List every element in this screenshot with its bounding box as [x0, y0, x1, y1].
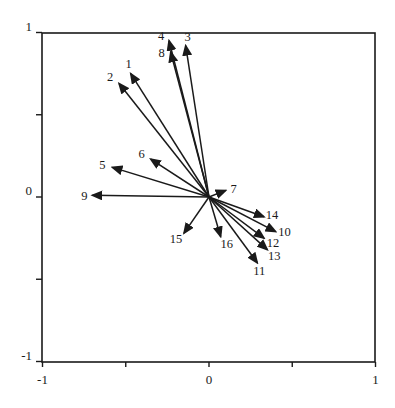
- x-tick-label: 1: [372, 372, 379, 387]
- y-tick-label: 0: [26, 183, 33, 198]
- vector-arrow-12: [209, 197, 264, 238]
- vector-label-9: 9: [81, 189, 87, 203]
- axes: -101-101: [21, 19, 379, 388]
- vector-label-4: 4: [158, 29, 165, 43]
- vector-biplot-chart: -101-101 12345678910111213141516: [0, 0, 395, 408]
- vector-label-16: 16: [220, 237, 233, 251]
- vector-label-10: 10: [278, 225, 291, 239]
- vector-arrow-11: [209, 197, 257, 263]
- vector-label-5: 5: [99, 158, 105, 172]
- y-tick-label: 1: [26, 19, 33, 34]
- vector-label-13: 13: [268, 249, 281, 263]
- vector-arrow-5: [112, 167, 209, 197]
- vector-label-8: 8: [159, 46, 165, 60]
- vector-label-11: 11: [253, 264, 265, 278]
- vectors: 12345678910111213141516: [81, 29, 291, 278]
- vector-label-15: 15: [170, 232, 183, 246]
- x-tick-label: -1: [37, 372, 48, 387]
- vector-arrow-1: [131, 74, 209, 197]
- vector-arrow-9: [92, 195, 209, 197]
- vector-arrow-15: [184, 197, 209, 233]
- vector-arrow-7: [209, 190, 226, 197]
- vector-label-2: 2: [107, 70, 113, 84]
- vector-label-1: 1: [126, 57, 132, 71]
- vector-label-3: 3: [185, 30, 191, 44]
- x-tick-label: 0: [206, 372, 213, 387]
- vector-label-14: 14: [266, 208, 279, 222]
- vector-label-7: 7: [231, 182, 237, 196]
- vector-arrow-2: [119, 83, 209, 197]
- vector-label-6: 6: [139, 147, 145, 161]
- vector-arrow-14: [209, 197, 264, 217]
- y-tick-label: -1: [21, 348, 32, 363]
